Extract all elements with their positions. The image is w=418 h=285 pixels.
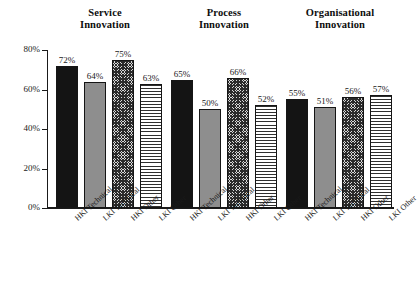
bar-value-label: 66% <box>230 67 247 77</box>
bar: 57% <box>370 95 392 208</box>
bar-value-label: 64% <box>87 71 104 81</box>
bar-value-label: 63% <box>143 73 160 83</box>
bar-value-label: 56% <box>345 86 362 96</box>
bar: 75% <box>112 60 134 208</box>
bar-value-label: 75% <box>115 49 132 59</box>
tick-mark <box>42 208 48 209</box>
tick-label: 20% <box>6 163 40 173</box>
tick-mark <box>42 50 48 51</box>
group-title-service-innovation: Service Innovation <box>49 7 161 30</box>
group-title-organisational-innovation: Organisational Innovation <box>280 7 400 30</box>
tick-label: 80% <box>6 44 40 54</box>
tick-mark <box>42 129 48 130</box>
tick-label: 40% <box>6 123 40 133</box>
bar: 63% <box>140 84 162 208</box>
tick-label: 0% <box>6 202 40 212</box>
bar: 65% <box>171 80 193 208</box>
bar-value-label: 72% <box>59 55 76 65</box>
bar-value-label: 55% <box>289 88 306 98</box>
tick-mark <box>42 90 48 91</box>
bar-value-label: 50% <box>202 98 219 108</box>
bar-value-label: 65% <box>174 69 191 79</box>
bar-value-label: 51% <box>317 96 334 106</box>
tick-mark <box>42 169 48 170</box>
bar: 52% <box>255 105 277 208</box>
bar: 55% <box>286 99 308 208</box>
bar: 72% <box>56 66 78 208</box>
bar-value-label: 57% <box>373 84 390 94</box>
tick-label: 60% <box>6 84 40 94</box>
group-title-process-innovation: Process Innovation <box>168 7 280 30</box>
bar-value-label: 52% <box>258 94 275 104</box>
